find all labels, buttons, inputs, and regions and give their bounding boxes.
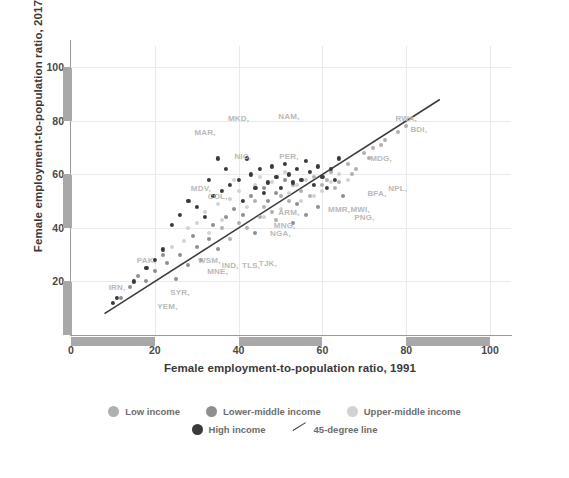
data-point (304, 213, 308, 217)
data-point (220, 218, 224, 222)
point-label-mmr: MMR, (328, 205, 350, 214)
y-tick-label: 100 (30, 61, 64, 73)
point-label-syr: SYR, (170, 288, 189, 297)
data-point (320, 189, 324, 193)
data-point (245, 205, 249, 209)
y-tick-label: 20 (30, 275, 64, 287)
data-point (191, 234, 195, 238)
legend-item[interactable]: High income (192, 424, 266, 435)
y-tick-label: 40 (30, 222, 64, 234)
legend-label: Lower-middle income (223, 406, 321, 417)
data-point (287, 191, 291, 195)
legend-label: High income (209, 424, 266, 435)
legend-label: Upper-middle income (364, 406, 461, 417)
data-point (350, 172, 354, 176)
data-point (216, 202, 220, 206)
data-point (241, 213, 245, 217)
point-label-mar: MAR, (194, 127, 215, 136)
x-range-band-segment (239, 337, 323, 346)
data-point (186, 226, 190, 230)
data-point (354, 167, 358, 171)
x-range-band-segment (71, 337, 155, 346)
data-point (346, 178, 350, 182)
data-point (178, 253, 182, 257)
data-point (396, 130, 400, 134)
legend-item[interactable]: Lower-middle income (206, 406, 321, 417)
data-point (379, 143, 383, 147)
data-point (195, 221, 199, 225)
data-point (287, 199, 291, 203)
point-label-png: PNG, (354, 213, 374, 222)
data-point (161, 253, 165, 257)
legend-item[interactable]: Upper-middle income (347, 406, 461, 417)
point-label-yem: YEM, (157, 301, 177, 310)
legend-item[interactable]: Low income (108, 406, 180, 417)
data-point (262, 215, 266, 219)
point-label-bdi: BDI, (410, 124, 427, 133)
legend-item[interactable]: 45-degree line (292, 424, 378, 435)
data-point (337, 172, 341, 176)
data-point (228, 197, 232, 201)
legend-line-icon (292, 424, 308, 435)
point-label-nam: NAM, (278, 111, 299, 120)
data-point (333, 186, 337, 190)
point-label-mdg: MDG, (370, 154, 392, 163)
data-point (337, 180, 341, 184)
data-point (383, 138, 387, 142)
data-point (224, 215, 228, 219)
point-label-nga: NGA, (270, 229, 291, 238)
legend-dot-icon (108, 406, 119, 417)
data-point (220, 226, 224, 230)
data-point (404, 124, 408, 128)
data-point (174, 277, 178, 281)
data-point (346, 162, 350, 166)
data-point (270, 180, 274, 184)
data-point (136, 274, 140, 278)
data-point (258, 175, 262, 179)
data-point (262, 186, 266, 190)
point-label-irn: IRN, (109, 282, 126, 291)
data-point (270, 210, 274, 214)
data-point (195, 245, 199, 249)
point-label-rwa: RWA, (395, 114, 417, 123)
legend-label: 45-degree line (314, 424, 378, 435)
legend-label: Low income (125, 406, 180, 417)
legend-row: Low incomeLower-middle incomeUpper-middl… (0, 406, 569, 417)
x-axis-title: Female employment-to-population ratio, 1… (80, 362, 500, 374)
data-point (312, 194, 316, 198)
data-point (283, 178, 287, 182)
x-axis-range-band[interactable] (71, 337, 511, 346)
point-label-per: PER, (279, 151, 298, 160)
data-point (274, 191, 278, 195)
point-label-col: COL, (208, 191, 228, 200)
data-point (144, 279, 148, 283)
legend-dot-icon (347, 406, 358, 417)
legend-dot-icon (206, 406, 217, 417)
point-label-nic: NIC, (234, 151, 251, 160)
point-label-arm: ARM, (278, 207, 299, 216)
data-point (245, 226, 249, 230)
data-point (170, 245, 174, 249)
data-point (232, 207, 236, 211)
point-label-mne: MNE, (207, 266, 228, 275)
x-axis-line (70, 335, 512, 336)
point-label-tls: TLS, (242, 261, 260, 270)
data-point (216, 247, 220, 251)
point-label-pak: PAK, (137, 256, 156, 265)
data-point (341, 194, 345, 198)
data-point (262, 205, 266, 209)
data-point (295, 183, 299, 187)
data-point (266, 199, 270, 203)
data-point (182, 239, 186, 243)
point-label-npl: NPL, (388, 183, 407, 192)
legend-row: High income45-degree line (0, 424, 569, 435)
data-point (237, 189, 241, 193)
point-label-bfa: BFA, (367, 189, 386, 198)
x-range-band-segment (406, 337, 490, 346)
point-label-mkd: MKD, (228, 114, 249, 123)
y-tick-label: 60 (30, 168, 64, 180)
data-point (119, 296, 123, 300)
y-tick-label: 80 (30, 115, 64, 127)
data-point (304, 178, 308, 182)
data-point (253, 199, 257, 203)
